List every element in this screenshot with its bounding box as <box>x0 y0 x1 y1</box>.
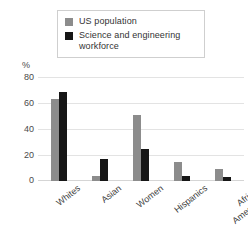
x-label-african-americans: African Americans <box>216 183 248 232</box>
x-label-whites: Whites <box>40 183 83 220</box>
y-tick-label-40: 40 <box>24 124 34 134</box>
legend-item-us-population: US population <box>65 16 198 27</box>
bar <box>133 115 141 181</box>
bar <box>182 176 190 181</box>
plot-area: 80 60 40 20 0 <box>38 77 244 181</box>
bar <box>51 99 59 181</box>
bar-group <box>162 77 203 181</box>
legend-label-science-engineering-workforce: Science and engineering workforce <box>79 30 198 52</box>
bar-groups <box>38 77 244 181</box>
x-label-asian: Asian <box>81 183 124 220</box>
bar <box>100 159 108 181</box>
legend-item-science-engineering-workforce: Science and engineering workforce <box>65 30 198 52</box>
y-tick-label-60: 60 <box>24 98 34 108</box>
bar-group <box>38 77 79 181</box>
bar <box>141 149 149 181</box>
x-label-hispanics: Hispanics <box>167 183 210 220</box>
y-axis-unit-label: % <box>22 60 30 70</box>
bar <box>92 176 100 181</box>
legend-swatch-black-icon <box>65 32 73 40</box>
y-tick-label-20: 20 <box>24 150 34 160</box>
y-tick-label-0: 0 <box>29 175 34 185</box>
legend-label-us-population: US population <box>79 16 137 27</box>
y-tick-label-80: 80 <box>24 72 34 82</box>
bar <box>223 177 231 182</box>
bar-group <box>120 77 161 181</box>
bar <box>174 162 182 181</box>
bar-group <box>79 77 120 181</box>
bar-chart: US population Science and engineering wo… <box>0 0 248 236</box>
legend-swatch-gray-icon <box>65 18 73 26</box>
x-label-women: Women <box>123 183 166 220</box>
x-axis-labels: Whites Asian Women Hispanics African Ame… <box>38 183 244 236</box>
bar <box>59 92 67 181</box>
bar-group <box>203 77 244 181</box>
chart-legend: US population Science and engineering wo… <box>57 10 205 58</box>
bar <box>215 169 223 181</box>
